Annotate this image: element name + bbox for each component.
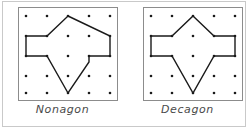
grid-dot <box>171 92 174 95</box>
grid-dot <box>234 75 237 78</box>
grid-dot <box>88 92 91 95</box>
grid-dot <box>213 15 216 18</box>
grid-dot <box>171 15 174 18</box>
grid-dot <box>150 15 153 18</box>
grid-dot <box>192 75 195 78</box>
grid-dot <box>88 75 91 78</box>
nonagon-label: Nonagon <box>0 103 125 116</box>
nonagon-board-svg <box>18 7 118 101</box>
grid-dot <box>150 92 153 95</box>
grid-dot <box>150 75 153 78</box>
grid-dot <box>46 92 49 95</box>
grid-dot <box>171 75 174 78</box>
nonagon-panel: Nonagon <box>0 0 125 130</box>
grid-dot <box>109 75 112 78</box>
grid-dot <box>46 75 49 78</box>
board-frame <box>19 8 118 101</box>
grid-dot <box>109 15 112 18</box>
grid-dot <box>109 92 112 95</box>
decagon-geoboard <box>143 7 243 101</box>
grid-dot <box>213 92 216 95</box>
grid-dot <box>25 15 28 18</box>
grid-dot <box>192 35 195 38</box>
grid-dot <box>46 15 49 18</box>
grid-dot <box>67 35 70 38</box>
grid-dot <box>67 75 70 78</box>
grid-dot <box>67 55 70 58</box>
nonagon-geoboard <box>18 7 118 101</box>
grid-dot <box>25 75 28 78</box>
grid-dot <box>192 55 195 58</box>
grid-dot <box>25 92 28 95</box>
grid-dot <box>88 35 91 38</box>
grid-dot <box>234 15 237 18</box>
grid-dot <box>213 75 216 78</box>
board-frame <box>144 8 243 101</box>
decagon-panel: Decagon <box>125 0 250 130</box>
decagon-board-svg <box>143 7 243 101</box>
grid-dot <box>234 92 237 95</box>
figure-root: Nonagon Decagon <box>0 0 250 130</box>
decagon-label: Decagon <box>125 103 250 116</box>
grid-dot <box>88 15 91 18</box>
